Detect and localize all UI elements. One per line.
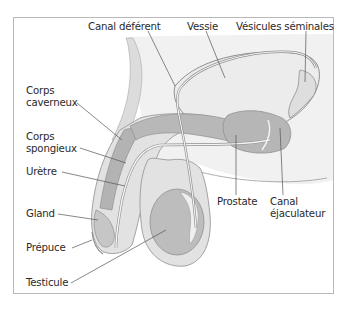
label-canal-deferent: Canal déférent xyxy=(88,21,161,33)
label-uretre: Urètre xyxy=(26,166,57,178)
label-prostate: Prostate xyxy=(217,196,257,208)
label-canal-ejaculateur-line2: éjaculateur xyxy=(270,208,325,220)
label-canal-ejaculateur-line1: Canal xyxy=(270,196,298,208)
label-vesicules-seminales: Vésicules séminales xyxy=(236,21,334,33)
label-vessie: Vessie xyxy=(187,21,218,33)
label-corps-caverneux-line1: Corps xyxy=(26,85,54,97)
label-prepuce: Prépuce xyxy=(26,242,66,254)
label-corps-caverneux-line2: caverneux xyxy=(26,97,78,109)
label-corps-spongieux-line2: spongieux xyxy=(26,143,77,155)
label-corps-spongieux-line1: Corps xyxy=(26,131,54,143)
label-testicule: Testicule xyxy=(26,277,68,289)
label-gland: Gland xyxy=(26,208,55,220)
leader-corps-caverneux xyxy=(77,103,122,140)
leader-prepuce xyxy=(72,240,92,248)
